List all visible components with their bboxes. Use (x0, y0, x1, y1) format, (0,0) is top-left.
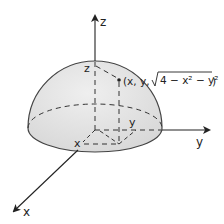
point-label-prefix: (x, y, (123, 75, 150, 87)
x-component-label: x (74, 137, 81, 150)
y-component-label: y (129, 116, 136, 129)
x-axis (14, 150, 78, 211)
y-axis-label: y (196, 135, 203, 149)
hemisphere-diagram: z y x z x y (x, y, 4 − x² − y² ) (0, 0, 224, 224)
surface-point (117, 78, 121, 82)
point-label-suffix: ) (212, 75, 216, 87)
point-label-radical: 4 − x² − y² (160, 74, 218, 86)
x-axis-label: x (23, 205, 30, 219)
z-component-label: z (84, 62, 90, 75)
z-axis-label: z (100, 15, 106, 29)
